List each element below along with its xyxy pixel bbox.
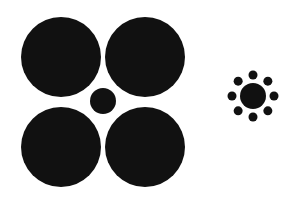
large-surround-circle <box>105 107 185 187</box>
small-surround-dot <box>249 113 258 122</box>
right-center-circle <box>240 83 266 109</box>
ebbinghaus-illusion-figure <box>0 0 296 204</box>
small-surround-dot <box>249 71 258 80</box>
small-surround-group <box>228 71 279 122</box>
small-surround-dot <box>263 106 272 115</box>
small-surround-dot <box>263 77 272 86</box>
large-surround-circle <box>21 107 101 187</box>
small-surround-dot <box>270 92 279 101</box>
small-surround-dot <box>228 92 237 101</box>
small-surround-dot <box>234 77 243 86</box>
left-center-circle <box>90 88 116 114</box>
small-surround-dot <box>234 106 243 115</box>
large-surround-circle <box>105 17 185 97</box>
large-surround-circle <box>21 17 101 97</box>
